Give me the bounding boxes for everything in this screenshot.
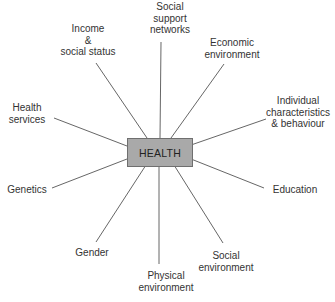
node-text: & [60,35,115,47]
node-text: Education [273,184,317,196]
node-text: networks [150,24,190,36]
node-text: environment [204,49,259,61]
node-genetics: Genetics [7,184,46,196]
node-text: Gender [75,247,108,259]
node-economic-environment: Economic environment [204,37,259,60]
node-text: social status [60,46,115,58]
node-text: environment [198,262,253,274]
node-physical-environment: Physical environment [138,270,193,293]
node-income-social-status: Income & social status [60,23,115,58]
node-health-services: Health services [9,102,46,125]
line-genetics [52,159,127,188]
line-economic [171,64,224,138]
node-individual-characteristics: Individual characteristics & behaviour [266,95,330,130]
line-social-env [174,165,223,243]
node-text: characteristics [266,107,330,119]
node-text: support [150,13,190,25]
health-center-box: HEALTH [127,138,193,167]
line-health-services [54,118,127,146]
node-text: & behaviour [266,118,330,130]
node-social-support-networks: Social support networks [150,1,190,36]
health-center-label: HEALTH [139,147,181,159]
node-text: Physical [138,270,193,282]
node-text: Genetics [7,184,46,196]
node-text: Income [60,23,115,35]
line-income [96,63,147,138]
node-text: Health [9,102,46,114]
node-text: Individual [266,95,330,107]
line-social-support [160,42,161,138]
node-text: environment [138,282,193,294]
line-individual [191,119,266,145]
node-education: Education [273,184,317,196]
node-text: Social [198,250,253,262]
node-text: services [9,114,46,126]
line-education [191,159,264,188]
node-text: Social [150,1,190,13]
node-text: Economic [204,37,259,49]
health-determinants-diagram: HEALTH Social support networks Income & … [0,0,335,302]
line-gender [96,165,146,242]
node-gender: Gender [75,247,108,259]
node-social-environment: Social environment [198,250,253,273]
